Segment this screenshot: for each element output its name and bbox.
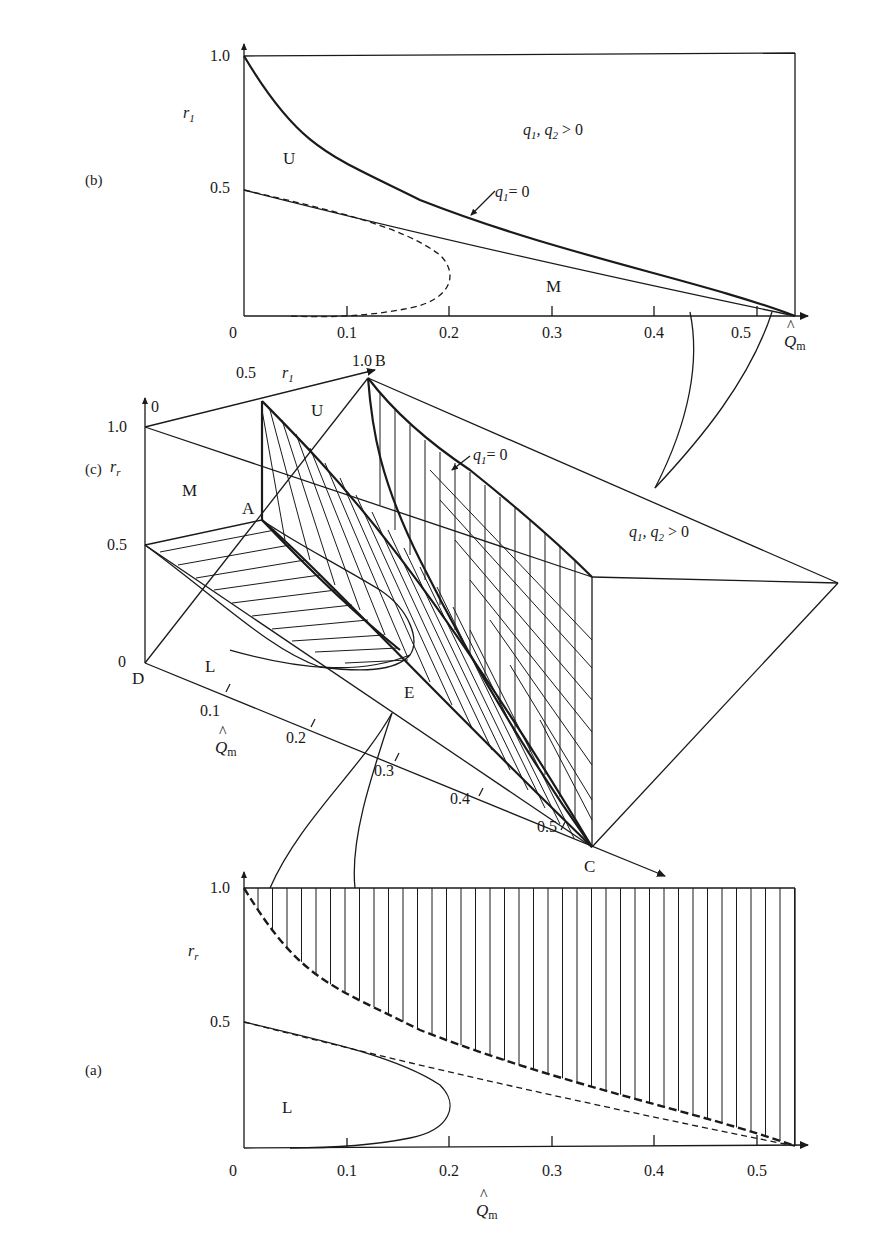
- connector-b-to-c: [655, 312, 772, 488]
- q1-annotation-arrow: [471, 191, 495, 215]
- half-plane-line: [145, 545, 592, 847]
- r1-tick-0.5: 0.5: [236, 364, 256, 381]
- qm-ticks: [226, 684, 565, 830]
- region-m-label: M: [546, 277, 561, 296]
- panel-a: (a) 1.0 0.5 rr 0 0.1 0.2 0.3 0.4 0.5 ^ Q…: [85, 872, 808, 1222]
- x-tick-0.3: 0.3: [542, 1162, 562, 1179]
- panel-c-label: (c): [85, 461, 102, 478]
- region-u-label: U: [283, 149, 295, 168]
- x-tick-0.3: 0.3: [542, 324, 562, 341]
- l-bottom-curve: [230, 650, 410, 668]
- point-c-label: C: [584, 857, 595, 876]
- x-tick-0.2: 0.2: [439, 1162, 459, 1179]
- x-tick-0.4: 0.4: [644, 1162, 664, 1179]
- top-back-edge: [368, 378, 838, 583]
- rr-tick-1.0: 1.0: [107, 418, 127, 435]
- x-tick-0.1: 0.1: [337, 324, 357, 341]
- q1-surface-top-edge: [368, 378, 592, 577]
- qm-tick-0.2: 0.2: [286, 729, 306, 746]
- r1-axis: [145, 370, 375, 427]
- qm-tick-0.3: 0.3: [374, 762, 394, 779]
- region-l-label: L: [282, 1098, 292, 1117]
- region-q-positive-label: q1, q2 > 0: [629, 523, 689, 543]
- svg-text:Qm: Qm: [476, 1201, 498, 1222]
- qm-tick-0.4: 0.4: [450, 790, 470, 807]
- x-tick-0.5: 0.5: [731, 324, 751, 341]
- x-ticks: [347, 306, 757, 316]
- rr-tick-0: 0: [118, 653, 126, 670]
- x-tick-0.5: 0.5: [747, 1162, 767, 1179]
- r1-axis-label: r1: [282, 364, 294, 384]
- x-tick-0.1: 0.1: [337, 1162, 357, 1179]
- figure-canvas: (b) 1.0 0.5 r1 0 0.1 0.2 0.3 0.4 0.5 ^: [0, 0, 880, 1255]
- point-e-label: E: [404, 683, 414, 702]
- top-left-edge: [145, 427, 592, 577]
- region-u-label: U: [311, 401, 323, 420]
- qm-tick-0.5: 0.5: [537, 818, 557, 835]
- u-m-boundary: [244, 190, 795, 316]
- svg-text:Qm: Qm: [215, 738, 237, 759]
- r1-tick-0: 0: [151, 398, 159, 415]
- x-tick-0.4: 0.4: [644, 324, 664, 341]
- half-level-line: [145, 520, 262, 545]
- region-q-positive-label: q1, q2 > 0: [523, 121, 583, 141]
- region-l-label: L: [205, 657, 215, 676]
- point-d-label: D: [132, 669, 144, 688]
- point-a-label: A: [242, 499, 255, 518]
- rr-tick-0.5: 0.5: [107, 536, 127, 553]
- q1-zero-label: q1= 0: [473, 446, 508, 466]
- l-region-boundary: [244, 1022, 450, 1148]
- top-frame: [244, 53, 795, 56]
- y-axis-label: r1: [183, 104, 195, 124]
- surface-upper-edge: [262, 401, 592, 847]
- x-tick-0.2: 0.2: [439, 324, 459, 341]
- panel-c: (c): [85, 352, 838, 876]
- region-m-label: M: [182, 481, 197, 500]
- qm-axis-label: ^ Qm: [215, 723, 237, 759]
- panel-a-label: (a): [85, 1062, 102, 1079]
- r1-tick-1.0: 1.0: [352, 352, 372, 369]
- qm-tick-0.1: 0.1: [200, 702, 220, 719]
- y-tick-0.5: 0.5: [210, 179, 230, 196]
- y-tick-1.0: 1.0: [210, 47, 230, 64]
- l-region-boundary: [145, 520, 414, 670]
- y-tick-1.0: 1.0: [210, 879, 230, 896]
- y-tick-0.5: 0.5: [210, 1013, 230, 1030]
- l-boundary-dashed: [244, 190, 450, 317]
- point-b-label: B: [375, 352, 386, 369]
- rr-axis-label: rr: [110, 458, 121, 478]
- x-tick-0: 0: [229, 324, 237, 341]
- right-slant-edge: [592, 583, 838, 847]
- x-axis-label: ^ Qm: [476, 1186, 498, 1222]
- x-axis-label: ^ Qm: [784, 317, 806, 353]
- panel-b: (b) 1.0 0.5 r1 0 0.1 0.2 0.3 0.4 0.5 ^: [85, 44, 808, 353]
- q1-zero-label: q1= 0: [495, 183, 530, 203]
- x-tick-0: 0: [229, 1162, 237, 1179]
- y-axis-label: rr: [188, 942, 199, 962]
- vertical-hatching: [258, 888, 795, 1146]
- panel-b-label: (b): [85, 172, 103, 189]
- svg-text:Qm: Qm: [784, 332, 806, 353]
- top-front-edge: [592, 577, 838, 583]
